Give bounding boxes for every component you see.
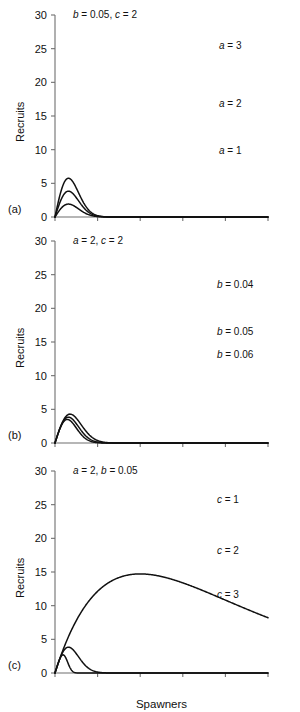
y-tick-label: 5 — [41, 403, 47, 415]
y-axis-ticks: 051015202530 — [35, 465, 55, 678]
y-tick-label: 10 — [35, 370, 47, 382]
y-tick-label: 30 — [35, 465, 47, 477]
panel-parameter-annotation: a = 2, b = 0.05 — [73, 465, 138, 476]
y-tick-label: 10 — [35, 144, 47, 156]
curve-c2 — [55, 647, 268, 673]
y-tick-label: 30 — [35, 235, 47, 247]
y-tick-label: 30 — [35, 9, 47, 21]
panel-plot-b: 051015202530a = 2, c = 2b = 0.04b = 0.05… — [0, 226, 300, 448]
panel-letter: (a) — [8, 203, 21, 215]
y-tick-label: 10 — [35, 600, 47, 612]
curve-label: a = 3 — [219, 40, 242, 51]
curve-labels: b = 0.04b = 0.05b = 0.06 — [217, 279, 254, 360]
curve-labels: a = 3a = 2a = 1 — [219, 40, 242, 157]
y-axis-title: Recruits — [14, 328, 26, 368]
panel-parameter-annotation: a = 2, c = 2 — [73, 235, 123, 246]
y-tick-label: 15 — [35, 336, 47, 348]
y-tick-label: 0 — [41, 437, 47, 448]
y-tick-label: 25 — [35, 269, 47, 281]
curve-label: b = 0.06 — [217, 349, 254, 360]
curve-label: a = 1 — [219, 145, 242, 156]
curve-label: a = 2 — [219, 98, 242, 109]
curve-label: b = 0.04 — [217, 279, 254, 290]
axes — [55, 241, 268, 443]
y-tick-label: 25 — [35, 499, 47, 511]
curves — [55, 414, 268, 443]
y-tick-label: 20 — [35, 532, 47, 544]
panel-b: 051015202530a = 2, c = 2b = 0.04b = 0.05… — [0, 226, 300, 448]
y-tick-label: 0 — [41, 211, 47, 222]
y-axis-ticks: 051015202530 — [35, 235, 55, 448]
curve-label: c = 2 — [217, 545, 239, 556]
curve-label: b = 0.05 — [217, 326, 254, 337]
y-tick-label: 25 — [35, 43, 47, 55]
panel-c: 05101520253001020304050a = 2, b = 0.05c … — [0, 456, 300, 678]
y-tick-label: 20 — [35, 76, 47, 88]
y-tick-label: 20 — [35, 302, 47, 314]
y-tick-label: 15 — [35, 566, 47, 578]
y-tick-label: 0 — [41, 667, 47, 678]
y-tick-label: 5 — [41, 177, 47, 189]
panel-a: 051015202530b = 0.05, c = 2a = 3a = 2a =… — [0, 0, 300, 222]
curves — [55, 178, 268, 217]
y-tick-label: 15 — [35, 110, 47, 122]
y-axis-title: Recruits — [14, 102, 26, 142]
y-axis-ticks: 051015202530 — [35, 9, 55, 222]
curve-c3 — [55, 655, 268, 673]
panel-parameter-annotation: b = 0.05, c = 2 — [73, 9, 137, 20]
panel-letter: (b) — [8, 429, 21, 441]
curve-a2 — [55, 191, 268, 217]
curve-label: c = 1 — [217, 494, 239, 505]
curve-label: c = 3 — [217, 589, 239, 600]
panel-letter: (c) — [8, 659, 21, 671]
y-tick-label: 5 — [41, 633, 47, 645]
stock-recruitment-figure: 051015202530b = 0.05, c = 2a = 3a = 2a =… — [0, 0, 300, 712]
panel-plot-c: 05101520253001020304050a = 2, b = 0.05c … — [0, 456, 300, 678]
panel-plot-a: 051015202530b = 0.05, c = 2a = 3a = 2a =… — [0, 0, 300, 222]
x-axis-title: Spawners — [0, 698, 300, 710]
curve-labels: c = 1c = 2c = 3 — [217, 494, 239, 599]
y-axis-title: Recruits — [14, 558, 26, 598]
